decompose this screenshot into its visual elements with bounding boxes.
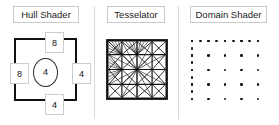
domain-point — [257, 69, 260, 72]
domain-point — [207, 69, 210, 72]
domain-point-field — [190, 39, 270, 101]
domain-point — [232, 40, 235, 43]
edge-factor-top: 8 — [45, 32, 64, 53]
domain-point — [240, 83, 243, 86]
domain-point — [240, 40, 243, 43]
panel-title-tesselator: Tesselator — [107, 6, 165, 23]
inside-tessellation-factor: 4 — [33, 58, 58, 87]
domain-point — [257, 40, 260, 43]
panel-hull-shader: Hull Shader 4 8 4 8 4 — [0, 0, 93, 125]
domain-point — [224, 40, 227, 43]
domain-point — [191, 54, 194, 57]
domain-point — [224, 54, 227, 57]
domain-point — [191, 47, 194, 50]
panel-tesselator: Tesselator — [96, 0, 176, 125]
domain-point — [224, 83, 227, 86]
domain-point — [207, 98, 210, 101]
domain-point — [224, 98, 227, 101]
tessellation-pipeline-diagram: Hull Shader 4 8 4 8 4 Tesselator — [0, 0, 279, 125]
domain-point — [240, 98, 243, 101]
domain-point — [257, 54, 260, 57]
domain-point — [257, 83, 260, 86]
domain-point — [257, 98, 260, 101]
domain-point — [207, 40, 210, 43]
domain-point — [207, 83, 210, 86]
domain-point — [191, 69, 194, 72]
edge-factor-right: 4 — [72, 63, 91, 84]
panel-domain-shader: Domain Shader — [180, 0, 279, 125]
tesselator-mesh — [106, 39, 168, 100]
domain-point — [215, 40, 218, 43]
domain-point — [191, 76, 194, 79]
domain-point — [207, 54, 210, 57]
edge-factor-left: 8 — [10, 63, 29, 84]
domain-point — [240, 54, 243, 57]
panel-title-hull-shader: Hull Shader — [13, 6, 79, 23]
domain-point — [191, 40, 194, 43]
domain-point — [191, 98, 194, 101]
domain-point — [191, 61, 194, 64]
domain-point — [191, 90, 194, 93]
domain-point — [199, 40, 202, 43]
domain-point — [248, 40, 251, 43]
panel-divider-2 — [178, 6, 179, 119]
panel-title-domain-shader: Domain Shader — [190, 6, 267, 23]
edge-factor-bottom: 4 — [45, 94, 64, 115]
domain-point — [240, 69, 243, 72]
domain-point — [191, 83, 194, 86]
panel-divider-1 — [94, 6, 95, 119]
domain-point — [224, 69, 227, 72]
